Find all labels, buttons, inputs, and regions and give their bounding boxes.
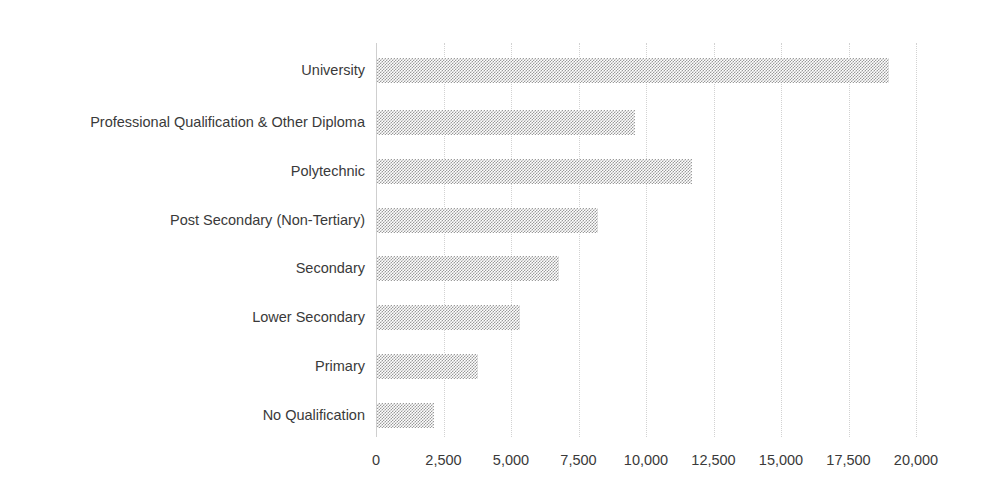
bar-chart: University Professional Qualification & …: [0, 0, 993, 501]
gridline: [916, 43, 917, 437]
category-label: University: [301, 58, 365, 83]
bar: [377, 208, 598, 233]
x-tick-label: 20,000: [894, 452, 938, 468]
gridline: [714, 43, 715, 437]
category-label: Post Secondary (Non-Tertiary): [170, 208, 365, 233]
bar: [377, 58, 889, 83]
x-tick-label: 10,000: [624, 452, 668, 468]
x-tick-label: 17,500: [826, 452, 870, 468]
x-tick-label: 5,000: [493, 452, 529, 468]
x-tick-label: 2,500: [425, 452, 461, 468]
gridline: [849, 43, 850, 437]
gridline: [646, 43, 647, 437]
category-label: Polytechnic: [291, 159, 365, 184]
plot-area: [376, 43, 936, 437]
bar: [377, 354, 478, 379]
category-label: Professional Qualification & Other Diplo…: [90, 110, 365, 135]
bar: [377, 305, 520, 330]
x-tick-label: 15,000: [759, 452, 803, 468]
bar: [377, 256, 559, 281]
gridline: [511, 43, 512, 437]
x-tick-label: 7,500: [560, 452, 596, 468]
x-tick-label: 12,500: [691, 452, 735, 468]
category-label: Lower Secondary: [252, 305, 365, 330]
bar: [377, 159, 692, 184]
category-label: Primary: [315, 354, 365, 379]
category-label: Secondary: [296, 256, 365, 281]
gridline: [781, 43, 782, 437]
category-label: No Qualification: [263, 403, 365, 428]
bar: [377, 403, 434, 428]
bar: [377, 110, 635, 135]
x-tick-label: 0: [372, 452, 380, 468]
gridline: [579, 43, 580, 437]
